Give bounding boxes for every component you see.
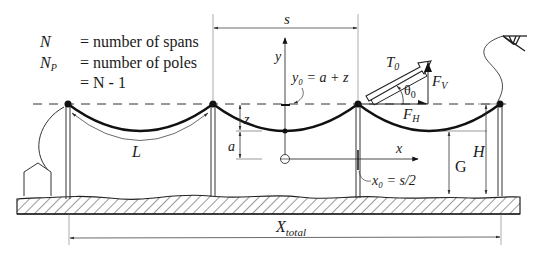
truss-support-icon bbox=[503, 36, 527, 51]
label-total-length: Xtotal bbox=[275, 218, 306, 238]
pole-2 bbox=[211, 104, 215, 197]
pole-4 bbox=[498, 104, 502, 196]
power-line-catenary-diagram: N = number of spans NP = number of poles… bbox=[0, 0, 535, 258]
label-y-axis: y bbox=[273, 49, 282, 64]
conductor bbox=[68, 104, 500, 131]
label-span: s bbox=[284, 11, 290, 27]
legend: N = number of spans NP = number of poles… bbox=[39, 33, 199, 91]
label-z: z bbox=[243, 112, 250, 127]
label-x-axis: x bbox=[395, 141, 403, 156]
service-drop-wire bbox=[39, 107, 64, 170]
pole-1 bbox=[66, 104, 70, 199]
legend-text-spans: = number of spans bbox=[80, 33, 199, 51]
house-icon bbox=[24, 163, 51, 196]
label-ground-clearance: G bbox=[455, 158, 467, 175]
label-a: a bbox=[228, 139, 235, 154]
label-x0-equation: x₀ = s/2 bbox=[371, 173, 416, 188]
legend-text-n-minus-1: = N - 1 bbox=[80, 74, 126, 91]
label-fh: FH bbox=[402, 106, 420, 124]
legend-symbol-n: N bbox=[39, 33, 52, 50]
truss-wire bbox=[484, 36, 503, 101]
label-length: L bbox=[131, 143, 141, 160]
label-theta: θ0 bbox=[404, 83, 416, 100]
arc-length-dimension bbox=[72, 113, 208, 141]
ground bbox=[17, 195, 520, 214]
label-pole-height: H bbox=[472, 143, 486, 160]
legend-text-poles: = number of poles bbox=[80, 54, 197, 72]
legend-symbol-np: NP bbox=[39, 54, 57, 73]
label-tension: T0 bbox=[386, 54, 399, 72]
label-fv: FV bbox=[431, 73, 449, 91]
label-y0-equation: y₀ = a + z bbox=[290, 70, 349, 85]
